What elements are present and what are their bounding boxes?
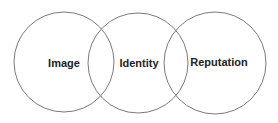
label-identity: Identity xyxy=(119,58,158,69)
venn-diagram: Image Identity Reputation xyxy=(0,0,278,123)
label-reputation: Reputation xyxy=(190,57,247,68)
label-image: Image xyxy=(48,58,80,69)
